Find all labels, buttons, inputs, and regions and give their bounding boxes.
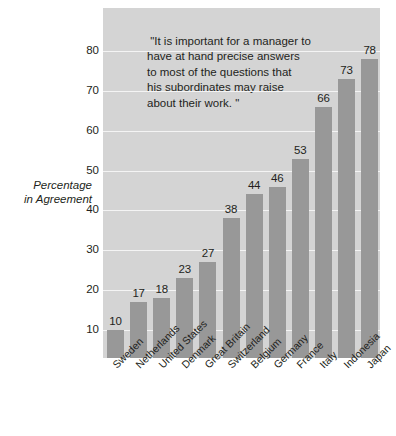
y-axis-tick-30: 30	[59, 243, 99, 255]
bar	[338, 79, 355, 358]
y-axis-tick-80: 80	[59, 44, 99, 56]
bar-value-label: 46	[262, 172, 292, 184]
y-axis-tick-50: 50	[59, 164, 99, 176]
y-axis-tick-10: 10	[59, 323, 99, 335]
bar	[292, 159, 309, 358]
bar-value-label: 53	[285, 144, 315, 156]
y-axis-tick-40: 40	[59, 203, 99, 215]
bar-value-label: 73	[332, 64, 362, 76]
bar-value-label: 23	[170, 263, 200, 275]
bar-chart-figure: Percentage in Agreement 1020304050607080…	[0, 0, 396, 436]
quote-annotation-line-3: to most of the questions that	[147, 65, 337, 80]
bar-value-label: 78	[355, 44, 380, 56]
y-axis-tick-20: 20	[59, 283, 99, 295]
bar-value-label: 27	[193, 247, 223, 259]
plot-area: "It is important for a manager tohave at…	[103, 8, 380, 358]
bar-value-label: 18	[147, 283, 177, 295]
bar	[361, 59, 378, 358]
bar-value-label: 38	[216, 203, 246, 215]
gridline-80	[103, 51, 380, 52]
x-axis: SwedenNetherlandsUnited StatesDenmarkGre…	[103, 358, 396, 436]
bar-value-label: 10	[103, 315, 131, 327]
quote-annotation-line-1: "It is important for a manager to	[147, 34, 337, 49]
bar-value-label: 66	[308, 92, 338, 104]
bar	[315, 107, 332, 358]
y-axis: 1020304050607080	[55, 8, 99, 358]
y-axis-tick-70: 70	[59, 84, 99, 96]
y-axis-tick-60: 60	[59, 124, 99, 136]
